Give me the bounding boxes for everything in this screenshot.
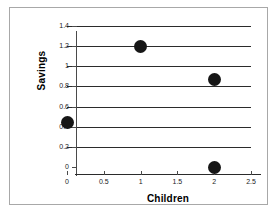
x-tick-label: 1 (129, 178, 153, 186)
y-tick-mark (72, 127, 77, 128)
x-tick-label: 0 (55, 178, 79, 186)
plot-area (67, 26, 251, 167)
y-tick-label-text: 0.8 (59, 82, 69, 90)
x-tick-mark (177, 171, 178, 175)
y-tick-label: 1 (48, 62, 69, 70)
y-tick-label: 1.2 (48, 42, 69, 50)
x-tick-mark (251, 171, 252, 175)
y-tick-mark (72, 26, 77, 27)
chart-screenshot: 00.20.40.60.811.21.4 00.511.522.5 Saving… (0, 0, 278, 213)
y-tick-mark (72, 107, 77, 108)
y-tick-label-text: 0.6 (59, 103, 69, 111)
gridline-y (67, 26, 251, 27)
y-tick-label: 1.4 (48, 22, 69, 30)
y-tick-mark (72, 66, 77, 67)
chart-outer-frame: 00.20.40.60.811.21.4 00.511.522.5 Saving… (9, 7, 268, 205)
data-point-marker (208, 73, 221, 86)
x-tick-mark (141, 171, 142, 175)
x-tick-label: 0.5 (92, 178, 116, 186)
x-tick-mark (67, 171, 68, 175)
x-tick-mark (104, 171, 105, 175)
y-tick-mark (72, 46, 77, 47)
y-tick-label-text: 1.2 (59, 42, 69, 50)
y-axis-title: Savings (36, 36, 47, 106)
y-tick-label-text: 1 (65, 62, 69, 70)
y-tick-label: 0.6 (48, 103, 69, 111)
y-tick-label-text: 0 (65, 163, 69, 171)
y-tick-mark (72, 147, 77, 148)
y-tick-label-text: 1.4 (59, 22, 69, 30)
gridline-y (67, 127, 251, 128)
gridline-y (67, 46, 251, 47)
x-tick-label: 1.5 (165, 178, 189, 186)
y-tick-label-text: 0.2 (59, 143, 69, 151)
data-point-marker (134, 40, 147, 53)
y-tick-label: 0.8 (48, 82, 69, 90)
y-tick-label: 0.2 (48, 143, 69, 151)
gridline-y (67, 86, 251, 87)
y-axis-line (76, 31, 77, 176)
x-tick-label: 2 (202, 178, 226, 186)
x-tick-label: 2.5 (239, 178, 263, 186)
gridline-y (67, 66, 251, 67)
gridline-y (67, 107, 251, 108)
y-tick-label: 0 (48, 163, 69, 171)
gridline-y (67, 147, 251, 148)
data-point-marker (208, 161, 221, 174)
x-axis-title: Children (76, 193, 260, 204)
y-tick-mark (72, 167, 77, 168)
y-tick-mark (72, 86, 77, 87)
data-point-marker (61, 116, 74, 129)
